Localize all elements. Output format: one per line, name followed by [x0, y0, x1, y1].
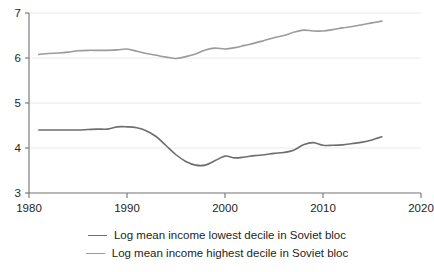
x-tick-label-1990: 1990 [114, 202, 140, 214]
x-tick-label-2020: 2020 [408, 202, 434, 214]
chart-canvas: 34567 19801990200020102020 [0, 0, 434, 225]
x-tick-label-2010: 2010 [310, 202, 336, 214]
legend-swatch-lowest-decile [88, 235, 107, 236]
series-lines [39, 21, 382, 166]
series-line-highest-decile [39, 21, 382, 58]
y-tick-label-6: 6 [15, 52, 21, 64]
legend-label-lowest-decile: Log mean income lowest decile in Soviet … [114, 228, 346, 243]
legend-item-highest-decile: Log mean income highest decile in Soviet… [86, 246, 349, 261]
y-axis-labels: 34567 [15, 7, 22, 199]
x-tick-label-2000: 2000 [212, 202, 238, 214]
chart-legend: Log mean income lowest decile in Soviet … [0, 228, 434, 261]
legend-item-lowest-decile: Log mean income lowest decile in Soviet … [88, 228, 346, 243]
line-chart: 34567 19801990200020102020 Log mean inco… [0, 0, 434, 272]
y-tick-label-7: 7 [15, 7, 21, 19]
legend-swatch-highest-decile [86, 253, 105, 254]
tick-marks [25, 13, 421, 198]
series-line-lowest-decile [39, 127, 382, 166]
legend-label-highest-decile: Log mean income highest decile in Soviet… [112, 246, 349, 261]
y-tick-label-4: 4 [15, 142, 22, 154]
plot-area: 34567 19801990200020102020 [0, 0, 434, 225]
x-axis-labels: 19801990200020102020 [16, 202, 434, 214]
x-tick-label-1980: 1980 [16, 202, 42, 214]
y-tick-label-3: 3 [15, 187, 21, 199]
gridlines [29, 13, 421, 193]
y-tick-label-5: 5 [15, 97, 21, 109]
